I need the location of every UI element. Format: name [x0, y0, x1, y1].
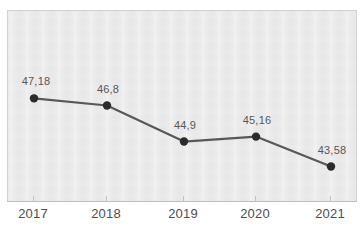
x-axis-tick-label: 2018 — [91, 207, 121, 221]
x-axis-tick — [106, 196, 107, 202]
data-point-marker — [327, 162, 335, 170]
line-chart: 20172018201920202021 47,1846,844,945,164… — [0, 0, 364, 233]
data-point-marker — [180, 137, 188, 145]
x-axis-tick-label: 2017 — [18, 207, 48, 221]
data-point-marker — [103, 101, 111, 109]
x-axis-tick — [33, 196, 34, 202]
x-axis-tick — [183, 196, 184, 202]
x-axis-line — [7, 201, 357, 202]
cropped-header-text — [296, 0, 358, 5]
value-label: 47,18 — [22, 76, 51, 87]
value-label: 45,16 — [243, 115, 272, 126]
value-label: 46,8 — [97, 84, 119, 95]
x-axis-tick — [330, 196, 331, 202]
x-axis-tick — [255, 196, 256, 202]
value-label: 44,9 — [174, 120, 196, 131]
series-line — [34, 98, 331, 166]
x-axis-tick-label: 2019 — [168, 207, 198, 221]
plot-area — [7, 10, 357, 202]
value-label: 43,58 — [318, 145, 347, 156]
data-point-marker — [252, 132, 260, 140]
x-axis-tick-label: 2021 — [315, 207, 345, 221]
data-point-marker — [30, 94, 38, 102]
x-axis-tick-label: 2020 — [240, 207, 270, 221]
series-line-and-markers — [8, 11, 357, 202]
